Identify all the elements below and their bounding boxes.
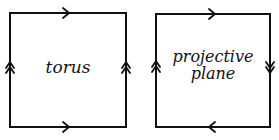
projective-plane-label: projective plane [156,49,270,83]
torus-label: torus [10,59,126,77]
projective-plane-label-line2: plane [156,66,270,83]
